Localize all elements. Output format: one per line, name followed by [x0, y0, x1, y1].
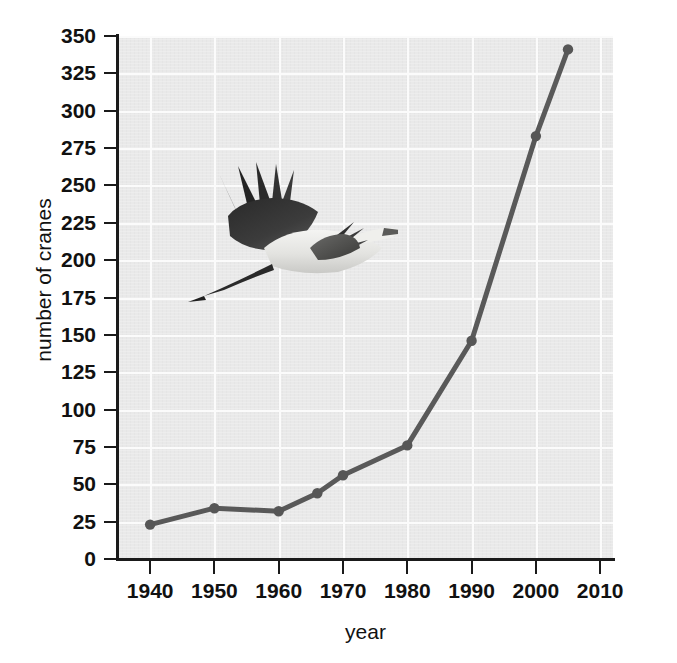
gridline-horizontal: [118, 522, 613, 524]
y-axis-tick-label: 75: [0, 436, 96, 457]
y-axis-tick: [104, 483, 117, 485]
x-axis-tick: [599, 561, 601, 574]
y-axis-tick: [104, 259, 117, 261]
gridline-horizontal: [118, 111, 613, 113]
y-axis-tick: [104, 446, 117, 448]
gridline-horizontal: [118, 36, 613, 38]
y-axis-tick: [104, 297, 117, 299]
x-axis-tick: [342, 561, 344, 574]
y-axis-tick-label: 325: [0, 62, 96, 83]
crane-photo: [168, 156, 398, 316]
y-axis-tick: [104, 371, 117, 373]
y-axis-tick: [104, 409, 117, 411]
y-axis-tick: [104, 334, 117, 336]
y-axis-tick-label: 50: [0, 473, 96, 494]
x-axis-tick: [471, 561, 473, 574]
gridline-horizontal: [118, 410, 613, 412]
gridline-vertical: [600, 36, 602, 559]
gridline-vertical: [536, 36, 538, 559]
x-axis-line: [116, 558, 615, 561]
gridline-vertical: [472, 36, 474, 559]
x-axis-label: year: [118, 620, 613, 644]
y-axis-tick: [104, 521, 117, 523]
x-axis-tick-label: 2010: [555, 580, 645, 601]
crane-feet: [188, 296, 206, 302]
x-axis-tick: [278, 561, 280, 574]
y-axis-label: number of cranes: [32, 150, 56, 410]
gridline-vertical: [407, 36, 409, 559]
y-axis-tick-label: 300: [0, 100, 96, 121]
gridline-horizontal: [118, 447, 613, 449]
gridline-vertical: [150, 36, 152, 559]
gridline-horizontal: [118, 335, 613, 337]
y-axis-tick: [104, 558, 117, 560]
y-axis-tick-label: 0: [0, 548, 96, 569]
x-axis-tick: [535, 561, 537, 574]
gridline-horizontal: [118, 372, 613, 374]
y-axis-tick: [104, 184, 117, 186]
chart-figure: 0255075100125150175200225250275300325350…: [0, 0, 677, 663]
x-axis-tick: [213, 561, 215, 574]
y-axis-tick-label: 350: [0, 25, 96, 46]
x-axis-tick: [406, 561, 408, 574]
y-axis-tick-label: 25: [0, 511, 96, 532]
x-axis-tick: [149, 561, 151, 574]
gridline-horizontal: [118, 148, 613, 150]
y-axis-tick: [104, 222, 117, 224]
gridline-horizontal: [118, 484, 613, 486]
y-axis-tick: [104, 35, 117, 37]
y-axis-tick: [104, 72, 117, 74]
y-axis-tick: [104, 110, 117, 112]
crane-legs: [204, 264, 274, 296]
gridline-horizontal: [118, 73, 613, 75]
y-axis-tick: [104, 147, 117, 149]
